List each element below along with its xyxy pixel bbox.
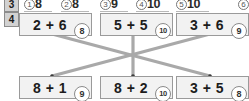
strip-marker-3: 3	[100, 0, 111, 10]
match-line-top3-bottom1[interactable]	[52, 34, 210, 76]
answer-badge-top-2: 10	[155, 23, 171, 39]
equation-text-top-3: 3 + 6	[177, 14, 237, 37]
worksheet-page: 3 1 8 2 8 3 9 4 10 5 10 6 4 2	[0, 0, 249, 101]
strip-value-3: 9	[111, 0, 117, 11]
strip-marker-5: 5	[176, 0, 187, 10]
exercise-number: 4	[4, 12, 19, 27]
equation-card-bottom-3[interactable]: 3 + 5 8	[176, 76, 249, 99]
equation-text-top-2: 5 + 5	[101, 14, 161, 37]
answer-badge-bottom-2: 10	[155, 86, 171, 101]
strip-marker-2: 2	[61, 0, 72, 10]
answer-badge-bottom-3: 8	[231, 86, 247, 101]
equation-text-top-1: 2 + 6	[20, 14, 80, 37]
answer-strip: 3 1 8 2 8 3 9 4 10 5 10 6	[0, 0, 249, 13]
strip-rule-2	[61, 11, 89, 12]
strip-value-2: 8	[72, 0, 78, 11]
strip-rule-1	[24, 11, 52, 12]
strip-value-1: 8	[35, 0, 41, 11]
equation-card-top-2[interactable]: 5 + 5 10	[100, 13, 173, 36]
equation-card-bottom-1[interactable]: 8 + 1 9	[19, 76, 92, 99]
exercise-number-previous: 3	[4, 0, 19, 12]
strip-value-5: 10	[187, 0, 200, 11]
strip-marker-1: 1	[24, 0, 35, 10]
equation-card-top-1[interactable]: 2 + 6 8	[19, 13, 92, 36]
strip-marker-6: 6	[238, 0, 249, 10]
answer-badge-bottom-1: 9	[74, 86, 90, 101]
strip-rule-5	[176, 11, 209, 12]
equation-text-bottom-1: 8 + 1	[20, 77, 80, 100]
answer-badge-top-1: 8	[74, 23, 90, 39]
strip-rule-3	[100, 11, 128, 12]
equation-card-bottom-2[interactable]: 8 + 2 10	[100, 76, 173, 99]
equation-text-bottom-2: 8 + 2	[101, 77, 161, 100]
answer-badge-top-3: 9	[231, 23, 247, 39]
strip-rule-4	[136, 11, 169, 12]
strip-marker-4: 4	[136, 0, 147, 10]
strip-value-4: 10	[147, 0, 160, 11]
equation-text-bottom-3: 3 + 5	[177, 77, 237, 100]
equation-card-top-3[interactable]: 3 + 6 9	[176, 13, 249, 36]
match-line-top1-bottom3[interactable]	[52, 34, 210, 76]
